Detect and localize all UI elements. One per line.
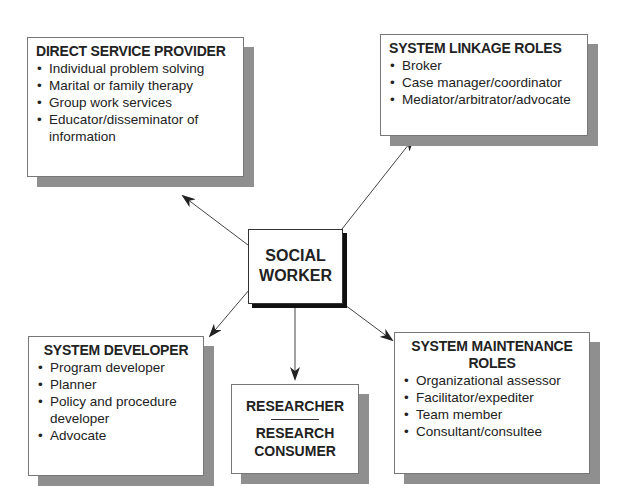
list-item: Planner: [37, 376, 195, 393]
research-consumer-line2: CONSUMER: [240, 442, 350, 460]
arrow-to-system-developer: [210, 290, 249, 336]
researcher-box: RESEARCHER RESEARCH CONSUMER: [231, 384, 359, 474]
list-item: Facilitator/expediter: [403, 389, 581, 406]
list-item: Consultant/consultee: [403, 423, 581, 440]
divider: [271, 419, 319, 420]
list-item: Organizational assessor: [403, 372, 581, 389]
direct-service-provider-box: DIRECT SERVICE PROVIDER Individual probl…: [27, 37, 244, 177]
system-developer-title: SYSTEM DEVELOPER: [37, 342, 195, 359]
list-item: Individual problem solving: [36, 60, 235, 77]
system-maintenance-box: SYSTEM MAINTENANCE ROLES Organizational …: [394, 332, 590, 474]
arrow-to-system-maintenance: [345, 305, 392, 340]
arrow-to-direct-service: [183, 196, 248, 245]
list-item: Mediator/arbitrator/advocate: [389, 91, 579, 108]
social-worker-box: SOCIAL WORKER: [248, 229, 343, 304]
list-item: Educator/disseminator of information: [36, 111, 235, 145]
system-linkage-title: SYSTEM LINKAGE ROLES: [389, 40, 579, 57]
direct-service-title: DIRECT SERVICE PROVIDER: [36, 43, 235, 60]
list-item: Team member: [403, 406, 581, 423]
list-item: Case manager/coordinator: [389, 74, 579, 91]
social-worker-line1: SOCIAL: [259, 246, 332, 266]
list-item: Advocate: [37, 427, 195, 444]
system-linkage-roles-box: SYSTEM LINKAGE ROLES Broker Case manager…: [380, 34, 588, 136]
list-item: Marital or family therapy: [36, 77, 235, 94]
list-item: Group work services: [36, 94, 235, 111]
system-developer-list: Program developer Planner Policy and pro…: [37, 359, 195, 444]
system-linkage-list: Broker Case manager/coordinator Mediator…: [389, 57, 579, 108]
system-developer-box: SYSTEM DEVELOPER Program developer Plann…: [28, 336, 204, 476]
arrow-to-system-linkage: [342, 139, 413, 229]
research-consumer-line1: RESEARCH: [240, 424, 350, 442]
system-maintenance-list: Organizational assessor Facilitator/expe…: [403, 372, 581, 440]
researcher-label: RESEARCHER: [240, 397, 350, 415]
system-maintenance-title-line1: SYSTEM MAINTENANCE: [403, 338, 581, 355]
list-item: Program developer: [37, 359, 195, 376]
list-item: Policy and procedure developer: [37, 393, 195, 427]
direct-service-list: Individual problem solving Marital or fa…: [36, 60, 235, 145]
social-worker-line2: WORKER: [259, 266, 332, 286]
list-item: Broker: [389, 57, 579, 74]
system-maintenance-title-line2: ROLES: [403, 355, 581, 372]
